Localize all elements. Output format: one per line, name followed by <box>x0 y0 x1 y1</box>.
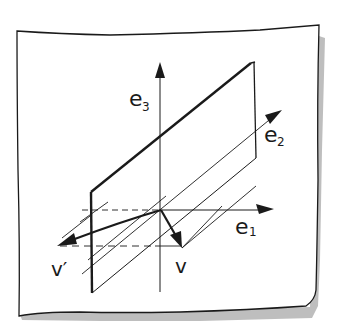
svg-text:2: 2 <box>277 135 285 149</box>
svg-text:1: 1 <box>249 225 257 239</box>
label-v: v <box>175 254 187 278</box>
label-v-prime: v′ <box>51 257 68 281</box>
svg-text:e: e <box>264 122 278 147</box>
svg-text:e: e <box>129 86 143 111</box>
svg-text:3: 3 <box>142 100 150 114</box>
reflection-diagram: e 3 e 2 e 1 v v′ <box>0 0 337 334</box>
svg-text:e: e <box>235 214 249 239</box>
